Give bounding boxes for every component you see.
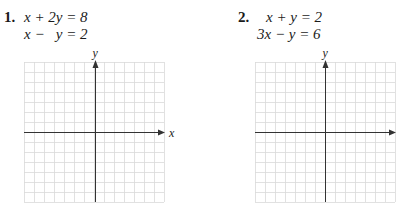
x-axis-arrow-icon [158, 130, 165, 136]
y-axis-arrow-icon [323, 60, 329, 68]
coordinate-grids: xyxy [0, 0, 399, 210]
y-axis-arrow-icon [93, 60, 99, 68]
x-axis-arrow-icon [389, 130, 396, 136]
x-axis-label: x [168, 126, 175, 140]
y-axis-label: y [322, 46, 329, 60]
y-axis-label: y [92, 46, 99, 60]
